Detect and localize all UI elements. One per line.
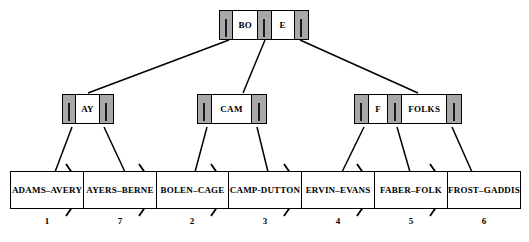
internal-center-pointer-1[interactable]	[252, 95, 266, 123]
internal-node-center[interactable]: CAM	[197, 94, 267, 124]
internal-right-key-1: FOLKS	[402, 95, 447, 123]
internal-node-right[interactable]: F FOLKS	[354, 94, 462, 124]
internal-right-pointer-0[interactable]	[355, 95, 369, 123]
root-key-0: BO	[233, 11, 258, 39]
internal-center-key-0: CAM	[212, 95, 253, 123]
leaf-node[interactable]: BOLEN–CAGE	[156, 171, 229, 209]
b-tree-diagram: BO E AY CAM F FOLKS ADAMS–AVERY AYERS–BE…	[0, 0, 529, 242]
leaf-number: 1	[27, 216, 67, 226]
internal-left-pointer-1[interactable]	[100, 95, 113, 123]
leaf-node[interactable]: ADAMS–AVERY	[10, 171, 84, 209]
leaf-node[interactable]: CAMP-DUTTON	[228, 171, 302, 209]
internal-right-key-0: F	[369, 95, 389, 123]
internal-left-pointer-0[interactable]	[63, 95, 76, 123]
leaf-number: 2	[172, 216, 212, 226]
root-pointer-1[interactable]	[258, 11, 271, 39]
root-pointer-2[interactable]	[295, 11, 308, 39]
internal-right-pointer-1[interactable]	[388, 95, 402, 123]
leaf-node[interactable]: FABER–FOLK	[374, 171, 448, 209]
leaf-number: 3	[245, 216, 285, 226]
leaf-node[interactable]: AYERS–BERNE	[83, 171, 157, 209]
internal-center-pointer-0[interactable]	[198, 95, 212, 123]
leaf-number: 5	[391, 216, 431, 226]
internal-right-pointer-2[interactable]	[447, 95, 461, 123]
internal-node-left[interactable]: AY	[62, 94, 114, 124]
internal-left-key-0: AY	[76, 95, 99, 123]
leaf-number: 7	[100, 216, 140, 226]
root-key-1: E	[272, 11, 295, 39]
leaf-node[interactable]: ERVIN–EVANS	[301, 171, 375, 209]
leaf-number: 4	[318, 216, 358, 226]
leaf-number: 6	[464, 216, 504, 226]
root-pointer-0[interactable]	[220, 11, 233, 39]
root-node[interactable]: BO E	[219, 10, 309, 40]
leaf-node[interactable]: FROST–GADDIS	[447, 171, 521, 209]
